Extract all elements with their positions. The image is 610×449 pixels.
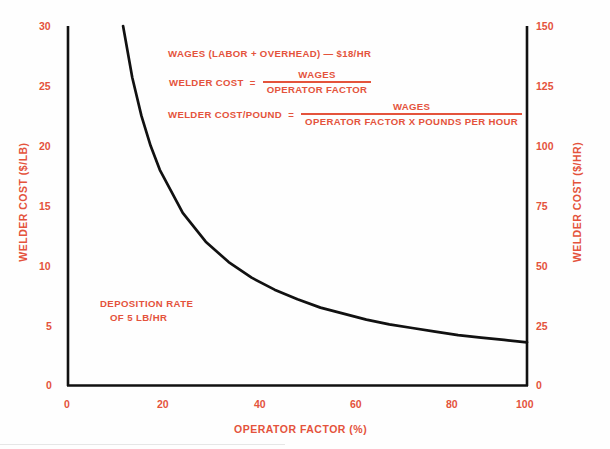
equation-welder-cost-equals: =: [250, 77, 256, 88]
equation-welder-cost-lhs: WELDER COST: [169, 77, 244, 88]
x-tick-40: 40: [254, 398, 266, 410]
y-right-tick-0: 0: [536, 379, 542, 391]
x-tick-100: 100: [516, 398, 534, 410]
y-left-tick-25: 25: [39, 80, 51, 92]
y-right-tick-75: 75: [536, 200, 548, 212]
equation-welder-cost-pound-numerator: WAGES: [387, 101, 436, 113]
equations-block: WAGES (LABOR + OVERHEAD) — $18/HR WELDER…: [168, 48, 522, 135]
y-right-tick-125: 125: [536, 80, 554, 92]
y-left-tick-0: 0: [46, 379, 52, 391]
equation-welder-cost-denominator: OPERATOR FACTOR: [263, 83, 372, 95]
x-axis-title: OPERATOR FACTOR (%): [234, 423, 367, 435]
equation-welder-cost-pound-fraction: WAGES OPERATOR FACTOR X POUNDS PER HOUR: [301, 101, 522, 127]
x-tick-0: 0: [64, 398, 70, 410]
x-tick-60: 60: [350, 398, 362, 410]
equation-welder-cost-pound-row: WELDER COST/POUND = WAGES OPERATOR FACTO…: [168, 101, 522, 127]
equation-welder-cost-pound-denominator: OPERATOR FACTOR X POUNDS PER HOUR: [301, 115, 522, 127]
y-right-tick-50: 50: [536, 260, 548, 272]
y-right-tick-25: 25: [536, 320, 548, 332]
equation-welder-cost-fraction: WAGES OPERATOR FACTOR: [263, 69, 372, 95]
equation-wages-row: WAGES (LABOR + OVERHEAD) — $18/HR: [168, 48, 522, 59]
x-tick-20: 20: [157, 398, 169, 410]
y-left-tick-10: 10: [39, 260, 51, 272]
x-tick-80: 80: [446, 398, 458, 410]
chart-figure: 30 25 20 15 10 5 0 150 125 100 75 50 25 …: [0, 0, 610, 449]
scan-artifact-line: [0, 444, 285, 445]
y-axis-left-title: WELDER COST ($/LB): [17, 132, 29, 272]
y-left-tick-20: 20: [39, 140, 51, 152]
y-left-tick-5: 5: [46, 320, 52, 332]
deposition-rate-line1: DEPOSITION RATE: [100, 297, 193, 311]
equation-welder-cost-pound-lhs: WELDER COST/POUND: [168, 109, 282, 120]
y-right-tick-100: 100: [536, 140, 554, 152]
y-left-tick-15: 15: [39, 200, 51, 212]
equation-welder-cost-numerator: WAGES: [292, 69, 341, 81]
y-axis-right-title: WELDER COST ($/HR): [571, 132, 583, 272]
equation-welder-cost-pound-equals: =: [288, 109, 294, 120]
deposition-rate-line2: OF 5 LB/HR: [110, 311, 193, 325]
equation-wages-text: WAGES (LABOR + OVERHEAD) — $18/HR: [168, 48, 371, 59]
deposition-rate-note: DEPOSITION RATE OF 5 LB/HR: [100, 297, 193, 325]
y-right-tick-150: 150: [536, 20, 554, 32]
y-left-tick-30: 30: [39, 20, 51, 32]
equation-welder-cost-row: WELDER COST = WAGES OPERATOR FACTOR: [169, 69, 522, 95]
